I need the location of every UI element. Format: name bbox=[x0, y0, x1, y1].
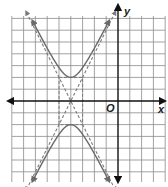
origin-label: O bbox=[106, 102, 115, 114]
grid-lines bbox=[12, 16, 165, 182]
x-axis-label: x bbox=[157, 103, 165, 115]
hyperbola-graph: y x O bbox=[0, 0, 168, 187]
axes bbox=[10, 7, 163, 180]
y-axis-label: y bbox=[123, 5, 131, 17]
